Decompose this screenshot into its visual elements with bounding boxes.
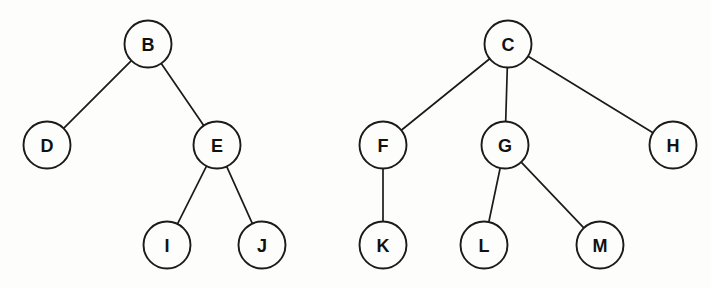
- left-tree-nodes: BDEIJ: [24, 21, 286, 269]
- tree-node-l[interactable]: L: [461, 222, 508, 269]
- node-label-e: E: [211, 136, 223, 156]
- node-label-f: F: [378, 136, 389, 156]
- tree-node-h[interactable]: H: [650, 122, 697, 169]
- tree-node-k[interactable]: K: [360, 222, 407, 269]
- tree-edge-b-d: [64, 61, 132, 129]
- node-label-c: C: [502, 35, 515, 55]
- tree-node-e[interactable]: E: [194, 122, 241, 169]
- tree-node-j[interactable]: J: [239, 222, 286, 269]
- tree-node-c[interactable]: C: [485, 21, 532, 68]
- tree-node-f[interactable]: F: [360, 122, 407, 169]
- node-label-h: H: [667, 136, 680, 156]
- node-label-l: L: [479, 236, 490, 256]
- node-label-d: D: [41, 136, 54, 156]
- tree-edge-g-l: [489, 168, 500, 222]
- tree-edge-e-j: [227, 166, 253, 223]
- tree-edge-c-f: [401, 59, 489, 130]
- node-label-b: B: [142, 35, 155, 55]
- right-tree-nodes: CFGHKLM: [360, 21, 697, 269]
- tree-node-b[interactable]: B: [125, 21, 172, 68]
- node-label-m: M: [593, 236, 608, 256]
- tree-node-m[interactable]: M: [577, 222, 624, 269]
- node-label-g: G: [498, 136, 512, 156]
- tree-node-d[interactable]: D: [24, 122, 71, 169]
- nodes-layer: BDEIJCFGHKLM: [24, 21, 697, 269]
- node-label-i: I: [164, 236, 169, 256]
- tree-node-g[interactable]: G: [482, 122, 529, 169]
- tree-diagram-svg: BDEIJCFGHKLM: [0, 0, 711, 288]
- tree-edge-g-m: [521, 162, 584, 228]
- tree-diagram-canvas: BDEIJCFGHKLM: [0, 0, 711, 288]
- tree-edge-c-g: [506, 67, 508, 121]
- tree-edge-e-i: [178, 166, 207, 224]
- node-label-k: K: [377, 236, 390, 256]
- tree-edge-b-e: [161, 63, 203, 125]
- tree-node-i[interactable]: I: [144, 222, 191, 269]
- edges-layer: [64, 56, 653, 228]
- tree-edge-c-h: [528, 56, 653, 132]
- node-label-j: J: [257, 236, 267, 256]
